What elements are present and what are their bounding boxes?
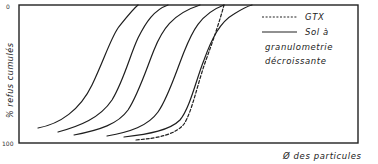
y-tick-bottom: 100 (2, 140, 14, 147)
legend-sol-label-line2: granulometrie (265, 42, 333, 52)
curves-group (38, 5, 252, 140)
y-tick-top: 0 (6, 3, 10, 10)
legend-gtx-label: GTX (305, 12, 324, 22)
soil-curve-3 (74, 5, 200, 135)
legend: GTX Sol à granulometrie décroissante (262, 12, 333, 66)
grain-size-chart: GTX Sol à granulometrie décroissante 0 1… (0, 0, 378, 164)
legend-sol-label-line1: Sol à (305, 27, 329, 37)
plot-frame (19, 5, 358, 143)
legend-sol-label-line3: décroissante (265, 56, 327, 66)
y-axis-label: % refus cumulés (5, 42, 15, 118)
soil-curve-4 (107, 5, 224, 136)
soil-curve-1 (38, 5, 138, 128)
x-axis-label: Ø des particules (282, 151, 362, 161)
soil-curve-2 (58, 5, 168, 132)
